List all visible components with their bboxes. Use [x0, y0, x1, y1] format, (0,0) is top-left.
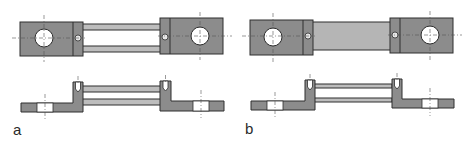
right-clamp-block — [390, 18, 453, 53]
panel-b-top-view — [242, 11, 462, 62]
set-screw-icon — [308, 80, 313, 90]
panel-b-side-view — [251, 73, 454, 118]
panel-label-b: b — [245, 121, 253, 136]
panel-label-a: a — [13, 122, 21, 137]
lower-rod — [82, 99, 161, 105]
set-screw-icon — [76, 82, 81, 92]
technical-drawing: .blk { fill:#8c8c8c; stroke:#2e2e2e; str… — [0, 0, 473, 146]
left-clamp-block — [250, 20, 313, 55]
solid-bar — [312, 22, 391, 50]
panel-a-side-view — [21, 75, 224, 120]
lower-rod — [82, 46, 161, 52]
set-screw-icon — [163, 81, 168, 91]
panel-a-top-view — [12, 12, 232, 62]
upper-rod — [82, 24, 161, 30]
lower-rod — [314, 98, 392, 102]
set-screw-icon — [162, 34, 168, 40]
upper-rod — [82, 86, 161, 92]
right-bracket — [160, 81, 224, 111]
left-clamp-block — [20, 22, 83, 56]
set-screw-icon — [395, 79, 400, 89]
upper-rod — [314, 84, 392, 88]
